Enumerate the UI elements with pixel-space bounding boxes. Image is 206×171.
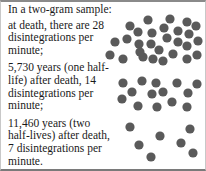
atom-dot xyxy=(167,97,176,106)
atom-dot xyxy=(125,21,134,30)
atom-dot xyxy=(137,76,146,85)
atom-dot xyxy=(135,47,144,56)
atom-dot xyxy=(176,138,185,147)
atom-dot xyxy=(146,39,155,48)
atom-dot xyxy=(147,28,156,37)
atom-dot xyxy=(182,17,191,26)
atom-dot xyxy=(133,101,142,110)
atom-dot xyxy=(134,140,143,149)
atom-dot xyxy=(122,34,131,43)
atom-dot xyxy=(148,54,157,63)
disintegration-dots-diagram xyxy=(0,0,206,171)
atom-dot xyxy=(158,87,167,96)
atom-dot xyxy=(127,87,136,96)
atom-dot xyxy=(143,15,152,24)
atom-dot xyxy=(185,124,194,133)
atom-dot xyxy=(146,152,155,161)
atom-dot xyxy=(162,33,171,42)
atom-dot xyxy=(105,50,114,59)
atom-dot xyxy=(182,102,191,111)
atom-dot xyxy=(110,37,119,46)
cluster-one-half-life xyxy=(117,76,201,111)
atom-dot xyxy=(173,37,182,46)
atom-dot xyxy=(193,36,202,45)
atom-dot xyxy=(183,88,192,97)
atom-dot xyxy=(192,50,201,59)
atom-dot xyxy=(188,148,197,157)
atom-dot xyxy=(134,39,143,48)
atom-dot xyxy=(182,41,191,50)
atom-dot xyxy=(155,131,164,140)
atom-dot xyxy=(152,102,161,111)
atom-dot xyxy=(125,122,134,131)
atom-dot xyxy=(159,23,168,32)
atom-dot xyxy=(151,78,160,87)
atom-dot xyxy=(118,78,127,87)
atom-dot xyxy=(182,54,191,63)
atom-dot xyxy=(165,14,174,23)
cluster-at-death xyxy=(105,14,202,65)
atom-dot xyxy=(172,78,181,87)
atom-dot xyxy=(147,89,156,98)
atom-dot xyxy=(191,21,200,30)
cluster-two-half-lives xyxy=(125,122,197,161)
atom-dot xyxy=(154,45,163,54)
atom-dot xyxy=(133,27,142,36)
atom-dot xyxy=(117,94,126,103)
atom-dot xyxy=(168,49,177,58)
atom-dot xyxy=(118,54,127,63)
atom-dot xyxy=(192,79,201,88)
atom-dot xyxy=(158,56,167,65)
atom-dot xyxy=(173,26,182,35)
atom-dot xyxy=(184,29,193,38)
